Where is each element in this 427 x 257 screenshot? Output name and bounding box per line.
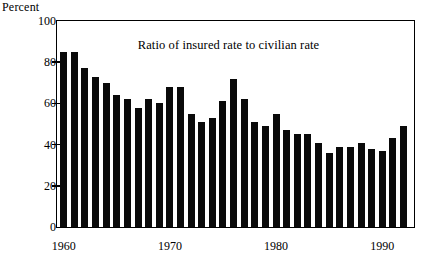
x-axis-tick-label: 1980 [253,240,299,252]
y-axis-tick-mark [52,144,60,146]
x-axis-tick-label: 1960 [41,240,87,252]
y-axis-tick-label: 80 [10,56,56,68]
y-axis-tick-label: 60 [10,97,56,109]
y-axis-tick-label: 0 [10,221,56,233]
y-axis-tick-mark [52,185,60,187]
y-axis-tick-label: 40 [10,139,56,151]
y-axis-tick-label: 20 [10,180,56,192]
y-axis-tick-mark [52,61,60,63]
y-axis-tick-label: 100 [10,15,56,27]
chart-figure: Percent 0204060801001960197019801990 Rat… [0,0,427,257]
x-axis-tick-label: 1970 [147,240,193,252]
y-axis-tick-mark [52,103,60,105]
x-axis-tick-label: 1990 [359,240,405,252]
chart-title: Ratio of insured rate to civilian rate [0,38,427,53]
